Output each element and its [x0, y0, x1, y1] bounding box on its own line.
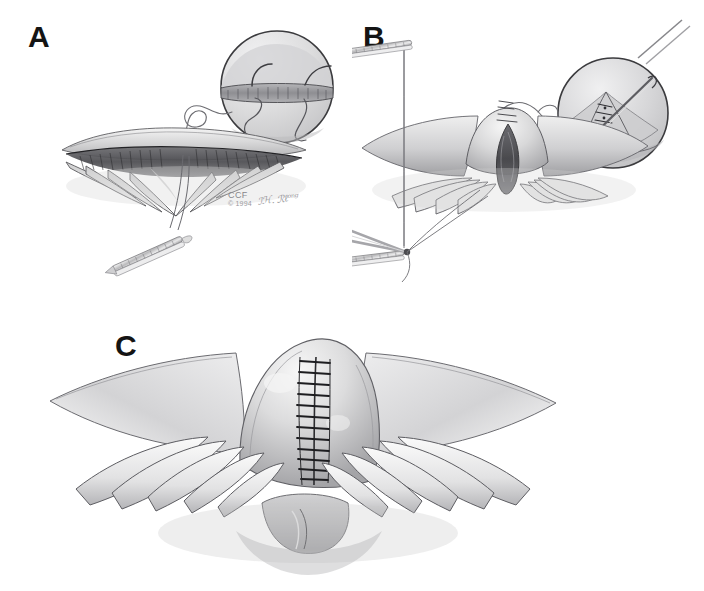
panel-b-needle-driver: [638, 20, 690, 64]
panel-c: C: [0, 295, 704, 591]
panel-a-drawing: [0, 0, 352, 295]
panel-c-left-wing: [50, 353, 245, 453]
panel-b-hemostat-superior: [352, 40, 413, 59]
figure-illustration: A: [0, 0, 704, 591]
panel-a: A: [0, 0, 352, 295]
panel-b-drawing: [352, 0, 704, 295]
panel-a-inset-circle: [221, 31, 333, 143]
panel-b-hemostat-inferior: [352, 251, 405, 269]
panel-a-hemostat-clamp: [104, 232, 194, 280]
panel-c-drawing: [0, 295, 704, 591]
panel-c-right-wing: [359, 353, 556, 455]
panel-b: B: [352, 0, 704, 295]
